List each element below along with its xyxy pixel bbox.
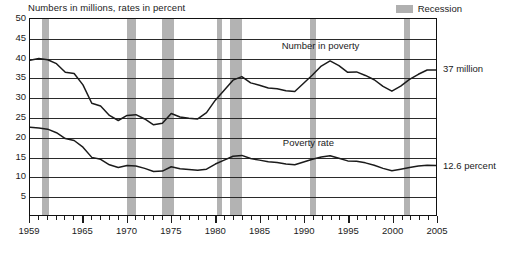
series-line [30, 127, 436, 171]
x-axis-minor-tick [402, 216, 403, 220]
x-axis-minor-tick [118, 216, 119, 220]
x-axis-minor-tick [109, 216, 110, 220]
x-axis-tick-label: 1995 [338, 226, 359, 236]
x-axis-tick-label: 1980 [205, 226, 226, 236]
x-axis-minor-tick [206, 216, 207, 220]
x-axis-minor-tick [189, 216, 190, 220]
x-axis-minor-tick [384, 216, 385, 220]
y-axis-tick-label: 15 [15, 152, 26, 162]
x-axis-minor-tick [419, 216, 420, 220]
x-axis-minor-tick [100, 216, 101, 220]
x-axis-minor-tick [339, 216, 340, 220]
x-axis-major-tick [127, 216, 128, 223]
recession-swatch-icon [396, 5, 413, 13]
x-axis-ticks [29, 216, 437, 223]
x-axis-tick-label: 1975 [160, 226, 181, 236]
legend-item-recession: Recession [418, 3, 462, 14]
x-axis-major-tick [215, 216, 216, 223]
series-lines [30, 19, 436, 215]
x-axis-labels: 1959196519701975198019851990199520002005 [0, 226, 518, 240]
x-axis-major-tick [393, 216, 394, 223]
x-axis-minor-tick [251, 216, 252, 220]
series-line [30, 59, 436, 125]
x-axis-minor-tick [180, 216, 181, 220]
y-axis-tick-label: 40 [15, 53, 26, 63]
x-axis-major-tick [171, 216, 172, 223]
y-axis-tick-label: 50 [15, 13, 26, 23]
x-axis-minor-tick [428, 216, 429, 220]
y-axis-tick-label: 35 [15, 72, 26, 82]
x-axis-minor-tick [224, 216, 225, 220]
x-axis-tick-label: 1970 [116, 226, 137, 236]
y-axis-tick-label: 30 [15, 92, 26, 102]
x-axis-minor-tick [277, 216, 278, 220]
y-axis-tick-label: 25 [15, 112, 26, 122]
x-axis-tick-label: 2005 [426, 226, 447, 236]
x-axis-minor-tick [357, 216, 358, 220]
x-axis-major-tick [348, 216, 349, 223]
plot-area [29, 18, 437, 216]
right-label-12-6-percent: 12.6 percent [443, 160, 496, 171]
x-axis-tick-label: 1965 [72, 226, 93, 236]
x-axis-minor-tick [331, 216, 332, 220]
y-axis-tick-label: 5 [21, 191, 26, 201]
x-axis-minor-tick [375, 216, 376, 220]
x-axis-minor-tick [313, 216, 314, 220]
legend: Recession [396, 3, 462, 14]
x-axis-minor-tick [410, 216, 411, 220]
chart-title: Numbers in millions, rates in percent [28, 2, 185, 13]
x-axis-minor-tick [162, 216, 163, 220]
x-axis-minor-tick [91, 216, 92, 220]
x-axis-minor-tick [295, 216, 296, 220]
x-axis-major-tick [29, 216, 30, 223]
x-axis-minor-tick [153, 216, 154, 220]
x-axis-tick-label: 1959 [18, 226, 39, 236]
x-axis-tick-label: 1985 [249, 226, 270, 236]
x-axis-minor-tick [366, 216, 367, 220]
x-axis-minor-tick [47, 216, 48, 220]
x-axis-major-tick [304, 216, 305, 223]
y-axis-tick-label: 45 [15, 33, 26, 43]
annotation-poverty-rate: Poverty rate [283, 137, 334, 148]
annotation-number-in-poverty: Number in poverty [282, 40, 360, 51]
x-axis-minor-tick [268, 216, 269, 220]
x-axis-minor-tick [38, 216, 39, 220]
x-axis-minor-tick [322, 216, 323, 220]
x-axis-major-tick [82, 216, 83, 223]
x-axis-major-tick [260, 216, 261, 223]
x-axis-minor-tick [135, 216, 136, 220]
x-axis-minor-tick [242, 216, 243, 220]
y-axis-tick-label: 10 [15, 171, 26, 181]
x-axis-minor-tick [233, 216, 234, 220]
x-axis-minor-tick [64, 216, 65, 220]
x-axis-major-tick [437, 216, 438, 223]
x-axis-minor-tick [144, 216, 145, 220]
x-axis-minor-tick [56, 216, 57, 220]
right-label-37-million: 37 million [443, 63, 483, 74]
x-axis-minor-tick [73, 216, 74, 220]
x-axis-minor-tick [198, 216, 199, 220]
x-axis-tick-label: 2000 [382, 226, 403, 236]
x-axis-minor-tick [286, 216, 287, 220]
y-axis-tick-label: 20 [15, 132, 26, 142]
x-axis-tick-label: 1990 [293, 226, 314, 236]
chart-root: Numbers in millions, rates in percent Re… [0, 0, 518, 257]
y-axis: 5101520253035404550 [0, 0, 29, 216]
